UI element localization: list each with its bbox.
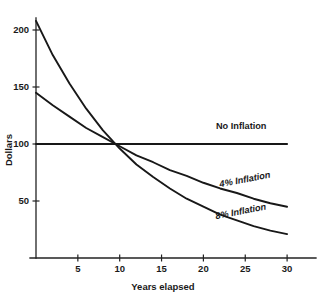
y-tick-label: 150: [13, 81, 29, 92]
x-tick-label: 20: [198, 263, 209, 274]
x-tick-label: 30: [282, 263, 293, 274]
series-label-no-inflation: No Inflation: [216, 121, 267, 131]
x-tick-label: 15: [156, 263, 167, 274]
x-tick-label: 10: [114, 263, 125, 274]
y-tick-label: 50: [18, 195, 29, 206]
x-axis-title: Years elapsed: [131, 281, 195, 292]
chart-background: [0, 0, 326, 298]
x-tick-label: 25: [240, 263, 251, 274]
y-tick-label: 200: [13, 24, 29, 35]
y-tick-label: 100: [13, 138, 29, 149]
chart-plot-area: 50100150200 51015202530 No Inflation4% I…: [0, 0, 326, 298]
chart-figure: 50100150200 51015202530 No Inflation4% I…: [0, 0, 326, 298]
x-tick-label: 5: [75, 263, 81, 274]
y-axis-title: Dollars: [3, 134, 14, 166]
